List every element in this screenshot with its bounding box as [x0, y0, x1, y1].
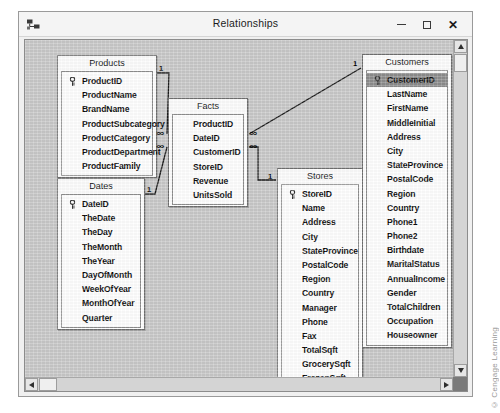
table-box-dates[interactable]: DatesDateIDTheDateTheDayTheMonthTheYearD… [57, 178, 145, 330]
field-row[interactable]: MaritalStatus [367, 257, 447, 271]
scroll-up-arrow[interactable] [454, 40, 467, 53]
field-row[interactable]: Birthdate [367, 243, 447, 257]
field-row[interactable]: TheMonth [62, 240, 140, 254]
field-row[interactable]: Gender [367, 286, 447, 300]
field-row[interactable]: DayOfMonth [62, 268, 140, 282]
field-row[interactable]: CustomerID [173, 145, 243, 159]
maximize-button[interactable] [414, 16, 440, 33]
field-row[interactable]: Houseowner [367, 328, 447, 342]
field-label: BrandName [82, 104, 129, 114]
table-title: Stores [278, 169, 362, 184]
field-row[interactable]: StoreID [282, 187, 358, 201]
field-row[interactable]: TheYear [62, 254, 140, 268]
field-row[interactable]: City [367, 144, 447, 158]
field-row[interactable]: Country [367, 201, 447, 215]
field-row[interactable]: PostalCode [282, 258, 358, 272]
table-box-stores[interactable]: StoresStoreIDNameAddressCityStateProvinc… [277, 168, 363, 377]
table-box-products[interactable]: ProductsProductIDProductNameBrandNamePro… [57, 55, 157, 178]
field-row[interactable]: DateID [62, 197, 140, 211]
field-row[interactable]: TheDate [62, 211, 140, 225]
vertical-scrollbar[interactable] [453, 40, 467, 377]
field-row[interactable]: ProductFamily [62, 159, 152, 173]
vertical-scroll-thumb[interactable] [454, 54, 467, 72]
field-row[interactable]: Phone2 [367, 229, 447, 243]
field-row[interactable]: Manager [282, 301, 358, 315]
field-label: TheYear [82, 256, 115, 266]
field-row[interactable]: ProductID [62, 74, 152, 88]
field-row[interactable]: AnnualIncome [367, 272, 447, 286]
cardinality-one-products: 1 [159, 64, 163, 73]
field-row[interactable]: Fax [282, 329, 358, 343]
horizontal-scrollbar[interactable] [25, 377, 453, 391]
field-row-selected[interactable]: CustomerID [367, 73, 447, 87]
field-label: MaritalStatus [387, 259, 440, 269]
field-row[interactable]: FirstName [367, 101, 447, 115]
field-row[interactable]: TotalSqft [282, 343, 358, 357]
table-title: Dates [58, 179, 144, 194]
field-row[interactable]: Phone1 [367, 215, 447, 229]
close-button[interactable]: ✕ [440, 16, 466, 33]
field-label: Phone [302, 317, 328, 327]
field-row[interactable]: Name [282, 201, 358, 215]
field-label: Name [302, 203, 325, 213]
cardinality-one-stores: 1 [268, 172, 272, 181]
relationships-canvas[interactable]: ProductsProductIDProductNameBrandNamePro… [25, 40, 453, 377]
field-row[interactable]: City [282, 230, 358, 244]
field-row[interactable]: DateID [173, 131, 243, 145]
field-row[interactable]: TheDay [62, 225, 140, 239]
table-field-list: ProductIDProductNameBrandNameProductSubc… [61, 71, 153, 176]
table-box-facts[interactable]: FactsProductIDDateIDCustomerIDStoreIDRev… [168, 98, 248, 207]
field-row[interactable]: Occupation [367, 314, 447, 328]
field-row[interactable]: Quarter [62, 311, 140, 325]
cardinality-one-customers: 1 [353, 59, 357, 68]
field-row[interactable]: Address [282, 215, 358, 229]
field-label: Occupation [387, 316, 433, 326]
field-label: TotalChildren [387, 302, 440, 312]
field-row[interactable]: StateProvince [282, 244, 358, 258]
field-row[interactable]: Address [367, 130, 447, 144]
table-box-customers[interactable]: CustomersCustomerIDLastNameFirstNameMidd… [362, 54, 452, 348]
field-row[interactable]: Region [282, 272, 358, 286]
field-row[interactable]: TotalChildren [367, 300, 447, 314]
table-title: Products [58, 56, 156, 71]
scroll-left-arrow[interactable] [25, 378, 38, 391]
field-label: Country [387, 203, 419, 213]
field-row[interactable]: ProductCategory [62, 131, 152, 145]
cardinality-many-customers: ∞ [249, 128, 257, 138]
field-label: ProductName [82, 90, 137, 100]
field-row[interactable]: StateProvince [367, 158, 447, 172]
field-label: StoreID [302, 189, 332, 199]
field-row[interactable]: BrandName [62, 102, 152, 116]
field-label: Gender [387, 288, 417, 298]
field-row[interactable]: ProductID [173, 117, 243, 131]
field-label: ProductDepartment [82, 147, 161, 157]
field-label: Revenue [193, 176, 228, 186]
field-row[interactable]: Region [367, 187, 447, 201]
minimize-button[interactable] [388, 16, 414, 33]
field-row[interactable]: UnitsSold [173, 188, 243, 202]
field-label: PostalCode [302, 260, 348, 270]
scroll-down-arrow[interactable] [454, 364, 467, 377]
field-row[interactable]: GrocerySqft [282, 357, 358, 371]
field-row[interactable]: LastName [367, 87, 447, 101]
field-row[interactable]: Country [282, 286, 358, 300]
scroll-right-arrow[interactable] [440, 378, 453, 391]
field-row[interactable]: PostalCode [367, 172, 447, 186]
field-row[interactable]: ProductName [62, 88, 152, 102]
field-row[interactable]: MiddleInitial [367, 116, 447, 130]
table-field-list: ProductIDDateIDCustomerIDStoreIDRevenueU… [172, 114, 244, 205]
primary-key-icon [289, 190, 296, 199]
table-field-list: CustomerIDLastNameFirstNameMiddleInitial… [366, 70, 448, 346]
field-label: StoreID [193, 162, 223, 172]
field-row[interactable]: Revenue [173, 174, 243, 188]
field-label: Country [302, 288, 334, 298]
field-row[interactable]: StoreID [173, 160, 243, 174]
field-row[interactable]: ProductSubcategory [62, 117, 152, 131]
field-label: TotalSqft [302, 345, 338, 355]
scrollbar-corner [453, 377, 467, 391]
field-row[interactable]: MonthOfYear [62, 296, 140, 310]
field-row[interactable]: WeekOfYear [62, 282, 140, 296]
field-row[interactable]: ProductDepartment [62, 145, 152, 159]
field-row[interactable]: Phone [282, 315, 358, 329]
horizontal-scroll-thumb[interactable] [39, 378, 57, 391]
